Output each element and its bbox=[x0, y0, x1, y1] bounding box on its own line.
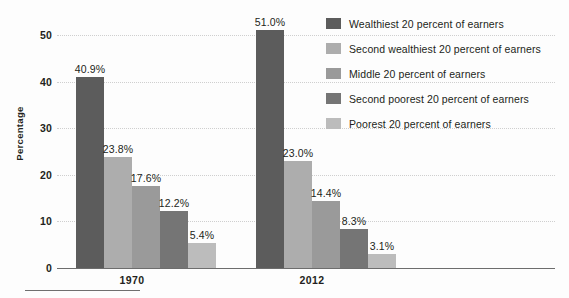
bar-2012-wealthiest[interactable]: 51.0% bbox=[256, 30, 284, 268]
bar-value-label: 40.9% bbox=[75, 63, 105, 75]
y-tick-50: 50 bbox=[6, 29, 52, 41]
x-group-label-1970: 1970 bbox=[72, 274, 192, 286]
legend-item-second-poorest[interactable]: Second poorest 20 percent of earners bbox=[326, 86, 541, 111]
legend-swatch-icon bbox=[326, 68, 341, 79]
bar-1970-wealthiest[interactable]: 40.9% bbox=[76, 77, 104, 268]
bar-2012-second-wealthiest[interactable]: 23.0% bbox=[284, 161, 312, 268]
bar-value-label: 23.0% bbox=[283, 147, 313, 159]
y-tick-10: 10 bbox=[6, 215, 52, 227]
legend: Wealthiest 20 percent of earners Second … bbox=[326, 11, 541, 136]
bar-value-label: 3.1% bbox=[370, 240, 394, 252]
bar-value-label: 5.4% bbox=[190, 229, 214, 241]
legend-item-label: Wealthiest 20 percent of earners bbox=[349, 18, 504, 30]
bar-1970-poorest[interactable]: 5.4% bbox=[188, 243, 216, 268]
legend-item-label: Middle 20 percent of earners bbox=[349, 68, 485, 80]
y-axis-title: Percentage bbox=[14, 89, 25, 179]
bar-chart-figure: 50 40 30 20 10 0 Percentage 40.9% 23.8% … bbox=[0, 0, 569, 298]
bar-2012-poorest[interactable]: 3.1% bbox=[368, 254, 396, 268]
legend-swatch-icon bbox=[326, 118, 341, 129]
bar-value-label: 12.2% bbox=[159, 197, 189, 209]
y-tick-0: 0 bbox=[6, 262, 52, 274]
legend-item-label: Poorest 20 percent of earners bbox=[349, 118, 491, 130]
bar-value-label: 23.8% bbox=[103, 143, 133, 155]
x-group-label-2012: 2012 bbox=[252, 274, 372, 286]
legend-item-second-wealthiest[interactable]: Second wealthiest 20 percent of earners bbox=[326, 36, 541, 61]
legend-item-poorest[interactable]: Poorest 20 percent of earners bbox=[326, 111, 541, 136]
legend-swatch-icon bbox=[326, 93, 341, 104]
bar-1970-second-poorest[interactable]: 12.2% bbox=[160, 211, 188, 268]
bar-1970-second-wealthiest[interactable]: 23.8% bbox=[104, 157, 132, 268]
y-tick-40: 40 bbox=[6, 76, 52, 88]
legend-item-label: Second poorest 20 percent of earners bbox=[349, 93, 529, 105]
bar-value-label: 51.0% bbox=[255, 16, 285, 28]
bar-value-label: 17.6% bbox=[131, 172, 161, 184]
footer-divider bbox=[25, 290, 140, 291]
bar-value-label: 14.4% bbox=[311, 187, 341, 199]
legend-item-wealthiest[interactable]: Wealthiest 20 percent of earners bbox=[326, 11, 541, 36]
bar-1970-middle[interactable]: 17.6% bbox=[132, 186, 160, 268]
x-axis-baseline bbox=[57, 268, 555, 269]
legend-swatch-icon bbox=[326, 43, 341, 54]
legend-swatch-icon bbox=[326, 18, 341, 29]
legend-item-label: Second wealthiest 20 percent of earners bbox=[349, 43, 541, 55]
legend-item-middle[interactable]: Middle 20 percent of earners bbox=[326, 61, 541, 86]
bar-2012-second-poorest[interactable]: 8.3% bbox=[340, 229, 368, 268]
bar-value-label: 8.3% bbox=[342, 215, 366, 227]
bar-2012-middle[interactable]: 14.4% bbox=[312, 201, 340, 268]
